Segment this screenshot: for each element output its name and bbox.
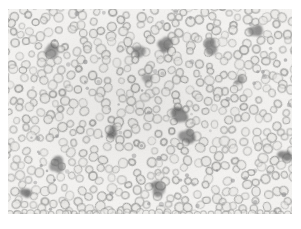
leukocyte xyxy=(48,154,66,174)
photomicrograph-plate xyxy=(8,9,292,214)
figure-root xyxy=(0,0,301,229)
blood-smear-field xyxy=(8,9,292,214)
